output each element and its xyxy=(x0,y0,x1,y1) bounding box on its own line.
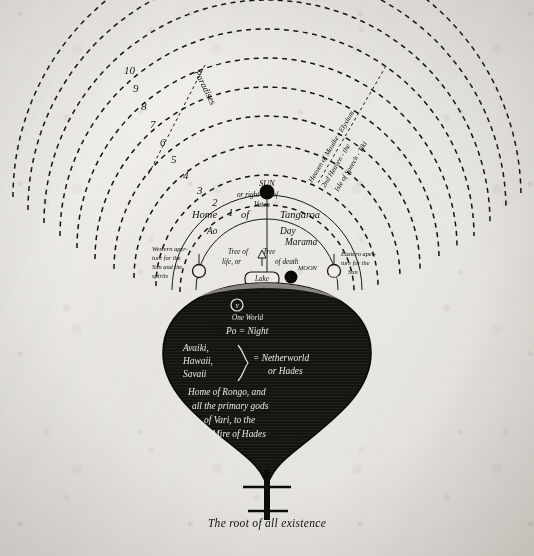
netherworld-label: = Netherworld xyxy=(253,353,309,363)
day-label: Day xyxy=(279,226,296,236)
tree-line3: Tree xyxy=(263,248,276,256)
paradises-label: Paradises xyxy=(192,67,219,106)
ao-label: Ao xyxy=(206,226,218,236)
heaven-number-1: 1 xyxy=(228,206,234,218)
po-night-label: Po = Night xyxy=(225,326,269,336)
heaven-number-8: 8 xyxy=(141,100,147,112)
moon-sub-label: Left eye of Vatea xyxy=(299,273,342,280)
sun-label: SUN xyxy=(259,179,275,188)
paradises-label-group: Paradises xyxy=(148,65,218,175)
west-aperture-group: Western aper- ture for the Sun and the s… xyxy=(0,0,206,279)
home-label: Home xyxy=(191,209,217,220)
mire-of-hades-label: Mire of Hades xyxy=(211,429,266,439)
of-label: of xyxy=(241,209,251,220)
west-aperture-label-l1: Western aper- xyxy=(152,245,188,252)
east-aperture-label-l2: ture for the xyxy=(341,259,370,266)
bulb-stem-group xyxy=(243,470,291,520)
all-primary-gods-label: all the primary gods xyxy=(192,401,269,411)
heaven-number-3: 3 xyxy=(196,184,203,196)
one-world-label: One World xyxy=(232,314,263,322)
lake-label: Lake xyxy=(254,275,270,283)
heaven-number-9: 9 xyxy=(133,82,139,94)
right-heaven-inscription: Heaven of Mauike - Elysium 2nd Heaven - … xyxy=(306,66,386,194)
heaven-numbers: 10 9 8 7 6 5 4 3 2 1 xyxy=(124,64,234,218)
heaven-number-6: 6 xyxy=(160,136,166,148)
west-aperture-label-l4: spirits xyxy=(152,272,168,279)
tree-line1: Tree of xyxy=(228,248,249,256)
moon-disc xyxy=(285,271,298,284)
avaiki-label: Avaiki, xyxy=(182,343,209,353)
sun-name-vatea: Vatea xyxy=(254,201,270,209)
sun-group: SUN or right eye of Vatea xyxy=(237,179,279,209)
west-aperture-label-l2: ture for the xyxy=(152,254,181,261)
heaven-number-2: 2 xyxy=(212,196,218,208)
tree-line4: of death xyxy=(275,258,299,266)
tangaroa-label: Tangaroa xyxy=(280,209,320,220)
heaven-number-7: 7 xyxy=(150,118,156,130)
savaii-label: Savaii xyxy=(183,369,207,379)
cosmology-figure: Paradises 10 9 8 7 6 5 4 3 2 1 Heaven of… xyxy=(0,0,534,556)
heaven-number-10: 10 xyxy=(124,64,136,76)
tangaroa-group: Home of Tangaroa Ao Day Marama xyxy=(191,209,320,247)
heaven-number-5: 5 xyxy=(171,153,177,165)
bulb-stem xyxy=(264,470,270,520)
moon-label: MOON xyxy=(297,264,318,271)
home-of-rongo-label: Home of Rongo, and xyxy=(187,387,266,397)
hawaii-label: Hawaii, xyxy=(182,356,213,366)
sun-sub-label: or right eye of xyxy=(237,191,279,199)
east-aperture-label-l3: Sun xyxy=(348,268,358,275)
tree-of-life-group: Tree of life, or Tree of death xyxy=(222,248,299,266)
hades-label: or Hades xyxy=(268,366,303,376)
west-aperture-circle xyxy=(193,265,206,278)
west-aperture-label-l3: Sun and the xyxy=(152,263,182,270)
heaven-number-4: 4 xyxy=(183,169,189,181)
of-vari-label: of Vari, to the xyxy=(204,415,255,425)
bottom-caption: The root of all existence xyxy=(208,517,326,530)
diagram-page: Paradises 10 9 8 7 6 5 4 3 2 1 Heaven of… xyxy=(0,0,534,556)
east-aperture-label-l1: Eastern aper- xyxy=(340,250,376,257)
tree-line2: life, or xyxy=(222,258,241,266)
marama-label: Marama xyxy=(284,237,318,247)
